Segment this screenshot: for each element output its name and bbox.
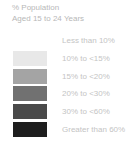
legend-label: Less than 10% [62, 36, 115, 46]
legend-item-10-to-15: 10% to <15% [13, 51, 133, 67]
legend-label: Greater than 60% [62, 125, 125, 135]
legend-swatch [13, 86, 47, 101]
legend-label: 30% to <60% [62, 107, 110, 117]
legend-item-20-to-30: 20% to <30% [13, 86, 133, 102]
legend-item-15-to-20: 15% to <20% [13, 69, 133, 85]
legend-item-30-to-60: 30% to <60% [13, 104, 133, 120]
legend-label: 20% to <30% [62, 89, 110, 99]
legend-label: 15% to <20% [62, 72, 110, 82]
legend-swatch [13, 104, 47, 119]
legend-swatch [13, 69, 47, 84]
legend-swatch [13, 122, 47, 137]
legend-item-greater-than-60: Greater than 60% [13, 122, 133, 138]
legend-swatch [13, 33, 47, 48]
legend-title-line1: % Population [12, 3, 59, 13]
legend-swatch [13, 51, 47, 66]
legend-item-less-than-10: Less than 10% [13, 33, 133, 49]
legend-title-line2: Aged 15 to 24 Years [12, 14, 84, 24]
legend-label: 10% to <15% [62, 54, 110, 64]
